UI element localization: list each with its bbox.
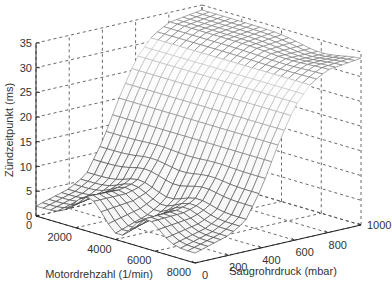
surface-plot: 05101520253035 02000400060008000 0200400… xyxy=(0,0,392,287)
z-tick-label: 20 xyxy=(20,111,32,123)
y-tick-label: 800 xyxy=(329,239,347,251)
z-tick-label: 10 xyxy=(20,161,32,173)
z-tick-label: 15 xyxy=(20,136,32,148)
x-tick-label: 6000 xyxy=(127,254,151,266)
z-axis-label: Zündzeitpunkt (ms) xyxy=(3,83,15,177)
x-axis-label: Motordrehzahl (1/min) xyxy=(45,268,153,280)
z-tick-label: 35 xyxy=(20,37,32,49)
x-tick-label: 2000 xyxy=(48,231,72,243)
z-tick-label: 25 xyxy=(20,86,32,98)
y-axis-label: Saugrohrdruck (mbar) xyxy=(229,265,337,277)
x-tick-label: 8000 xyxy=(167,266,191,278)
y-tick-label: 0 xyxy=(202,269,208,281)
y-tick-label: 600 xyxy=(295,246,313,258)
y-tick-label: 400 xyxy=(262,254,280,266)
x-tick-label: 0 xyxy=(26,219,32,231)
z-tick-label: 30 xyxy=(20,62,32,74)
z-tick-label: 5 xyxy=(26,185,32,197)
surface-mesh xyxy=(36,10,361,253)
x-tick-label: 4000 xyxy=(87,243,111,255)
z-axis-ticks: 05101520253035 xyxy=(20,37,40,222)
y-tick-label: 1000 xyxy=(367,219,391,231)
